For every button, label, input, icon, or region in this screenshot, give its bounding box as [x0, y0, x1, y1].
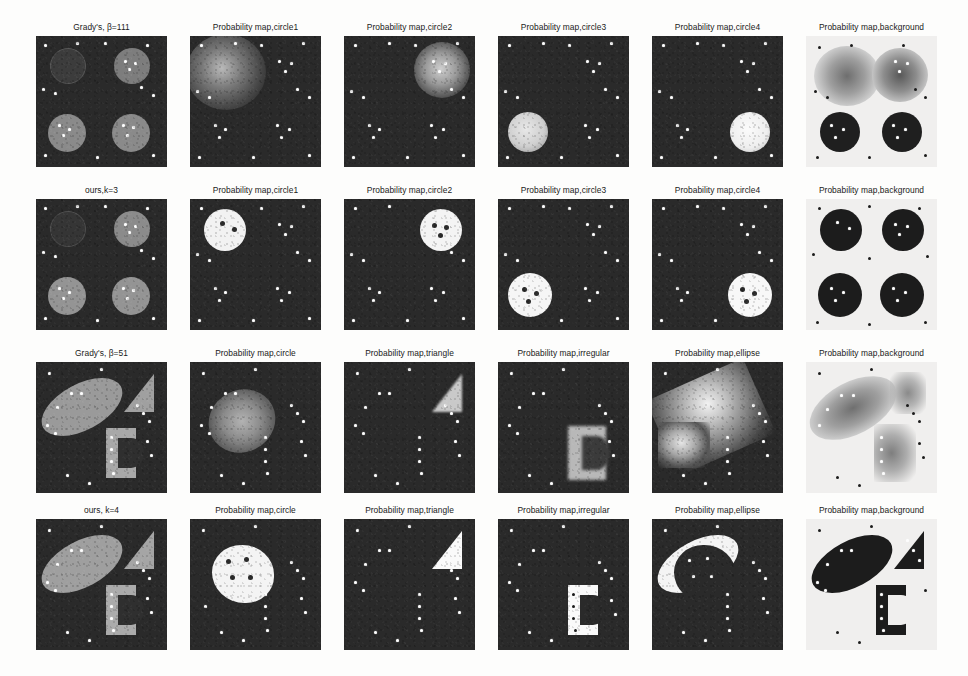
panel-r4c5[interactable]: Probability map,ellipse — [640, 505, 795, 668]
panel-r1c3[interactable]: Probability map,circle2 — [332, 22, 487, 185]
panel-caption: Probability map,circle3 — [486, 22, 641, 32]
panel-r4c6[interactable]: Probability map,background — [794, 505, 949, 668]
panel-image-probmap-circle1-ours — [190, 199, 321, 330]
panel-image-probmap-circle-grady — [190, 362, 321, 493]
panel-r3c4[interactable]: Probability map,irregular — [486, 348, 641, 511]
panel-image-segmentation-grady-circles — [36, 36, 167, 167]
panel-caption: Probability map,circle2 — [332, 185, 487, 195]
figure-row-2: ours,k=3 Probabi — [0, 185, 968, 348]
panel-r3c6[interactable]: Probability map,background — [794, 348, 949, 511]
panel-r3c5[interactable]: Probability map,ellipse — [640, 348, 795, 511]
panel-image-probmap-background-grady-shapes — [806, 362, 937, 493]
panel-r4c4[interactable]: Probability map,irregular — [486, 505, 641, 668]
panel-caption: Probability map,irregular — [486, 348, 641, 358]
panel-caption: Probability map,circle2 — [332, 22, 487, 32]
panel-r2c3[interactable]: Probability map,circle2 — [332, 185, 487, 348]
panel-image-probmap-circle4-grady — [652, 36, 783, 167]
panel-caption: Probability map,background — [794, 185, 949, 195]
panel-image-probmap-circle-ours — [190, 519, 321, 650]
panel-image-probmap-ellipse-ours — [652, 519, 783, 650]
panel-r1c4[interactable]: Probability map,circle3 — [486, 22, 641, 185]
panel-caption: Probability map,irregular — [486, 505, 641, 515]
panel-caption: Probability map,circle3 — [486, 185, 641, 195]
panel-r4c1[interactable]: ours, k=4 — [24, 505, 179, 668]
panel-caption: Probability map,circle1 — [178, 22, 333, 32]
panel-image-segmentation-grady-shapes — [36, 362, 167, 493]
panel-r3c3[interactable]: Probability map,triangle — [332, 348, 487, 511]
panel-image-probmap-background-ours-shapes — [806, 519, 937, 650]
panel-caption: ours,k=3 — [24, 185, 179, 195]
panel-r2c1[interactable]: ours,k=3 — [24, 185, 179, 348]
panel-r1c5[interactable]: Probability map,circle4 — [640, 22, 795, 185]
panel-image-probmap-triangle-grady — [344, 362, 475, 493]
panel-caption: Probability map,ellipse — [640, 348, 795, 358]
panel-image-probmap-background-grady-circles — [806, 36, 937, 167]
figure-image-grid: Grady's, β=111 — [0, 0, 968, 676]
panel-image-probmap-circle2-grady — [344, 36, 475, 167]
panel-caption: ours, k=4 — [24, 505, 179, 515]
panel-r2c2[interactable]: Probability map,circle1 — [178, 185, 333, 348]
figure-row-3: Grady's, β=51 Probability map,circ — [0, 348, 968, 511]
panel-r3c2[interactable]: Probability map,circle — [178, 348, 333, 511]
panel-image-probmap-circle2-ours — [344, 199, 475, 330]
panel-image-probmap-circle3-grady — [498, 36, 629, 167]
panel-image-probmap-irregular-ours — [498, 519, 629, 650]
panel-caption: Probability map,triangle — [332, 348, 487, 358]
panel-r1c6[interactable]: Probability map,background — [794, 22, 949, 185]
panel-caption: Probability map,circle1 — [178, 185, 333, 195]
panel-caption: Grady's, β=111 — [24, 22, 179, 32]
panel-r1c2[interactable]: Probability map,circle1 — [178, 22, 333, 185]
panel-caption: Probability map,circle4 — [640, 22, 795, 32]
panel-image-segmentation-ours-shapes — [36, 519, 167, 650]
panel-r3c1[interactable]: Grady's, β=51 — [24, 348, 179, 511]
panel-caption: Probability map,circle4 — [640, 185, 795, 195]
panel-image-probmap-circle3-ours — [498, 199, 629, 330]
panel-image-probmap-circle1-grady — [190, 36, 321, 167]
panel-caption: Probability map,ellipse — [640, 505, 795, 515]
panel-image-probmap-ellipse-grady — [652, 362, 783, 493]
panel-caption: Probability map,circle — [178, 505, 333, 515]
panel-image-probmap-irregular-grady — [498, 362, 629, 493]
panel-caption: Probability map,background — [794, 348, 949, 358]
figure-row-1: Grady's, β=111 — [0, 22, 968, 185]
panel-image-probmap-background-ours-circles — [806, 199, 937, 330]
panel-r4c3[interactable]: Probability map,triangle — [332, 505, 487, 668]
panel-caption: Grady's, β=51 — [24, 348, 179, 358]
panel-r1c1[interactable]: Grady's, β=111 — [24, 22, 179, 185]
panel-caption: Probability map,triangle — [332, 505, 487, 515]
panel-r2c5[interactable]: Probability map,circle4 — [640, 185, 795, 348]
panel-caption: Probability map,circle — [178, 348, 333, 358]
panel-r2c4[interactable]: Probability map,circle3 — [486, 185, 641, 348]
panel-image-segmentation-ours-circles — [36, 199, 167, 330]
panel-r2c6[interactable]: Probability map,background — [794, 185, 949, 348]
panel-image-probmap-triangle-ours — [344, 519, 475, 650]
panel-caption: Probability map,background — [794, 22, 949, 32]
panel-r4c2[interactable]: Probability map,circle — [178, 505, 333, 668]
panel-image-probmap-circle4-ours — [652, 199, 783, 330]
figure-row-4: ours, k=4 Probability map,circle — [0, 505, 968, 668]
panel-caption: Probability map,background — [794, 505, 949, 515]
